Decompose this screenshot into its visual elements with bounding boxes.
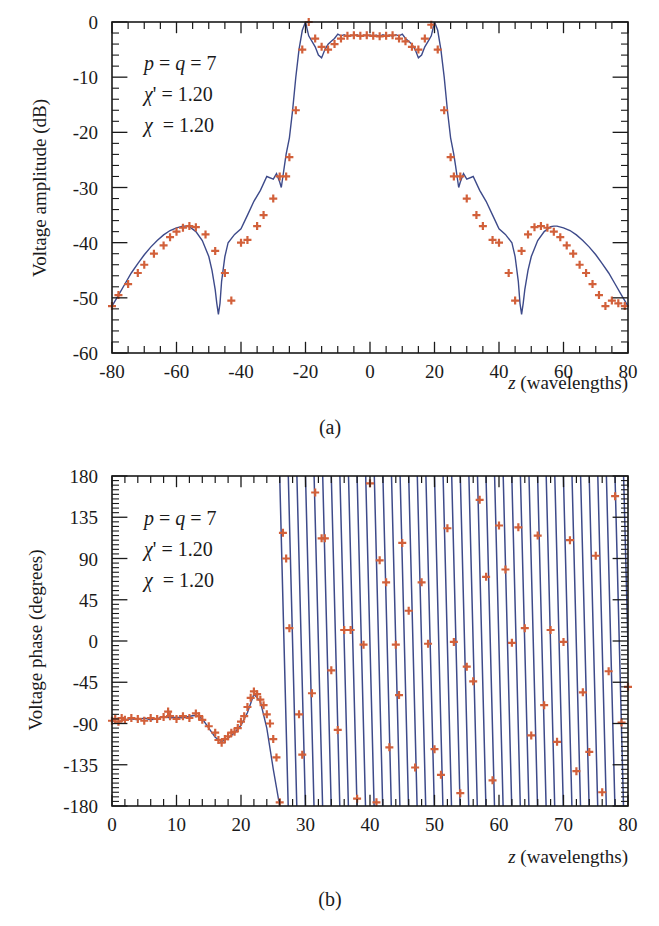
- amplitude-chart: -80-60-40-20020406080-60-50-40-30-20-100…: [29, 12, 638, 439]
- amplitude-annotation-chi-prime: χ' = 1.20: [142, 83, 213, 106]
- x-tick-label: 10: [167, 814, 186, 835]
- y-tick-label: -180: [63, 796, 98, 817]
- amplitude-annotation-chi: χ = 1.20: [142, 114, 214, 137]
- x-tick-label: 20: [232, 814, 251, 835]
- x-tick-label: 20: [425, 361, 444, 382]
- y-tick-label: 45: [79, 590, 98, 611]
- x-tick-label: 30: [296, 814, 315, 835]
- phase-y-axis-title: Voltage phase (degrees): [25, 549, 47, 730]
- x-tick-label: 0: [107, 814, 117, 835]
- y-tick-label: -50: [73, 288, 98, 309]
- x-tick-label: -60: [164, 361, 189, 382]
- y-tick-label: -45: [73, 672, 98, 693]
- amplitude-annotation-pq: p = q = 7: [142, 52, 217, 75]
- phase-chart: 01020304050607080-180-135-90-45045901351…: [25, 466, 641, 911]
- y-tick-label: 90: [79, 549, 98, 570]
- x-tick-label: 40: [361, 814, 380, 835]
- x-tick-label: -40: [228, 361, 253, 382]
- y-tick-label: -40: [73, 233, 98, 254]
- phase-x-axis-title: z (wavelengths): [507, 846, 628, 868]
- phase-annotation-pq: p = q = 7: [142, 507, 217, 530]
- y-tick-label: -90: [73, 714, 98, 735]
- y-tick-label: -60: [73, 343, 98, 364]
- y-tick-label: -30: [73, 178, 98, 199]
- x-tick-label: 0: [365, 361, 375, 382]
- y-tick-label: 0: [89, 12, 99, 33]
- phase-caption: (b): [318, 888, 341, 911]
- y-tick-label: -20: [73, 122, 98, 143]
- x-tick-label: 50: [425, 814, 444, 835]
- theory-line-wrapped: [280, 476, 641, 806]
- x-tick-label: -20: [293, 361, 318, 382]
- y-tick-label: 0: [89, 631, 99, 652]
- x-tick-label: 40: [490, 361, 509, 382]
- x-tick-label: -80: [99, 361, 124, 382]
- amplitude-caption: (a): [319, 416, 341, 439]
- x-tick-label: 60: [490, 814, 509, 835]
- amplitude-y-axis-title: Voltage amplitude (dB): [29, 99, 51, 277]
- y-tick-label: 135: [70, 507, 99, 528]
- y-tick-label: 180: [70, 466, 99, 487]
- phase-annotation-chi-prime: χ' = 1.20: [142, 538, 213, 561]
- x-tick-label: 70: [554, 814, 573, 835]
- y-tick-label: -135: [63, 755, 98, 776]
- x-tick-label: 80: [619, 814, 638, 835]
- figure: -80-60-40-20020406080-60-50-40-30-20-100…: [0, 0, 659, 926]
- amplitude-x-axis-title: z (wavelengths): [507, 372, 628, 394]
- y-tick-label: -10: [73, 67, 98, 88]
- phase-annotation-chi: χ = 1.20: [142, 569, 214, 592]
